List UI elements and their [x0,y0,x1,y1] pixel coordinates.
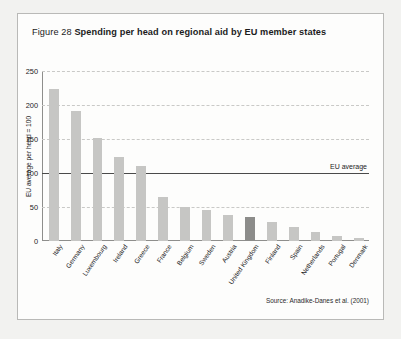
bar-sweden [202,210,212,241]
y-axis-title: EU average per head = 100 [23,71,35,241]
bar-finland [267,222,277,241]
x-label-ireland: Ireland [112,243,129,264]
bar-ireland [114,157,124,241]
bar-united-kingdom [245,217,255,241]
bar-france [158,197,168,241]
y-tick-label-50: 50 [30,203,38,212]
plot-area: 050100150200250 EU average [42,71,369,241]
x-label-portugal: Portugal [327,243,347,267]
bar-portugal [332,236,342,241]
bar-slot [332,71,342,241]
y-tick-label-250: 250 [26,67,38,76]
x-label-spain: Spain [288,243,303,261]
bar-slot [311,71,321,241]
bar-series [43,71,369,241]
y-tick-label-200: 200 [26,101,38,110]
bar-italy [49,89,59,241]
source-note: Source: Anadike-Danes et al. (2001) [266,297,369,304]
x-label-belgium: Belgium [175,243,194,267]
x-label-germany: Germany [64,243,85,269]
bar-slot [245,71,255,241]
x-axis-labels: ItalyGermanyLuxembourgIrelandGreeceFranc… [43,243,370,301]
bar-slot [202,71,212,241]
figure-frame: Figure 28 Spending per head on regional … [17,13,384,320]
bar-luxembourg [93,138,103,241]
bar-slot [267,71,277,241]
bar-slot [49,71,59,241]
bar-netherlands [311,232,321,241]
bar-slot [71,71,81,241]
bar-slot [158,71,168,241]
x-label-finland: Finland [263,243,281,265]
x-label-italy: Italy [51,243,64,257]
bar-slot [223,71,233,241]
page-background: Figure 28 Spending per head on regional … [0,0,401,339]
bar-spain [289,227,299,241]
bar-slot [289,71,299,241]
y-tick-label-100: 100 [26,169,38,178]
bar-slot [93,71,103,241]
bar-slot [114,71,124,241]
x-label-denmark: Denmark [348,243,369,269]
bar-austria [223,215,233,241]
y-tick-label-0: 0 [34,237,38,246]
y-tick-label-150: 150 [26,135,38,144]
x-label-greece: Greece [133,243,151,265]
bar-germany [71,111,81,241]
x-label-france: France [155,243,173,264]
x-label-austria: Austria [221,243,239,264]
bar-slot [180,71,190,241]
bar-denmark [354,238,364,241]
bar-slot [136,71,146,241]
x-label-sweden: Sweden [197,243,216,267]
bar-greece [136,166,146,241]
bar-belgium [180,207,190,241]
chart-plot-wrapper: EU average per head = 100 05010015020025… [18,14,385,321]
y-axis-title-text: EU average per head = 100 [26,115,33,196]
bar-slot [354,71,364,241]
